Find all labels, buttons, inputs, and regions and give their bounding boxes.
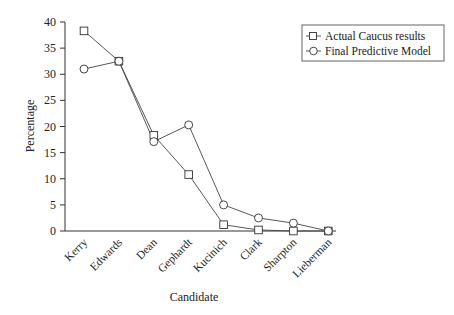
x-ticks: KerryEdwardsDeanGephardtKucinichClarkSha…	[62, 235, 334, 279]
y-tick-label: 40	[44, 15, 56, 29]
data-point-circle	[255, 214, 263, 222]
data-point-circle	[115, 57, 123, 65]
data-point-square	[220, 221, 228, 229]
data-point-square	[255, 226, 263, 234]
data-point-square	[290, 227, 298, 235]
data-point-circle	[324, 227, 332, 235]
y-tick-label: 15	[44, 146, 56, 160]
legend-square-marker	[310, 33, 317, 40]
axes	[65, 22, 336, 231]
legend-circle-marker	[310, 47, 318, 55]
data-point-circle	[185, 121, 193, 129]
x-tick-label: Gephardt	[155, 235, 195, 275]
y-ticks: 0510152025303540	[44, 15, 65, 238]
data-point-circle	[150, 138, 158, 146]
data-point-square	[80, 27, 88, 35]
legend-label-model: Final Predictive Model	[325, 45, 431, 57]
y-tick-label: 0	[50, 224, 56, 238]
y-tick-label: 20	[44, 120, 56, 134]
x-tick-label: Edwards	[87, 236, 124, 273]
data-point-circle	[80, 65, 88, 73]
y-tick-label: 30	[44, 67, 56, 81]
data-point-square	[185, 171, 193, 179]
x-tick-label: Clark	[237, 236, 264, 263]
y-axis-label: Percentage	[23, 100, 37, 153]
y-tick-label: 10	[44, 172, 56, 186]
data-point-circle	[220, 201, 228, 209]
x-tick-label: Dean	[134, 236, 160, 262]
x-tick-label: Kerry	[62, 236, 90, 264]
y-tick-label: 25	[44, 93, 56, 107]
series-group	[80, 27, 332, 235]
series-line-model	[84, 61, 328, 231]
legend-label-actual: Actual Caucus results	[325, 30, 426, 42]
data-point-circle	[289, 219, 297, 227]
line-chart: 0510152025303540 KerryEdwardsDeanGephard…	[0, 0, 454, 315]
y-tick-label: 5	[50, 198, 56, 212]
x-tick-label: Kucinich	[191, 236, 229, 274]
x-axis-label: Candidate	[170, 290, 219, 304]
y-tick-label: 35	[44, 41, 56, 55]
legend: Actual Caucus results Final Predictive M…	[302, 25, 444, 61]
